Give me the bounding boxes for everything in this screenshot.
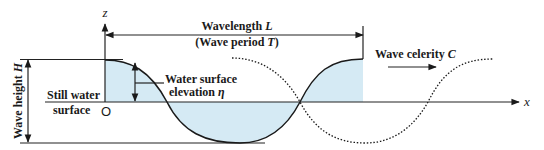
z-axis-label: z	[101, 5, 107, 20]
water-surface-elevation-line2: elevation η	[169, 85, 225, 99]
wave-height-text: Wave height	[11, 72, 25, 139]
wave-celerity-symbol: C	[448, 47, 457, 61]
elevation-symbol: η	[218, 85, 225, 99]
wave-celerity-text: Wave celerity	[375, 47, 448, 61]
elevation-text: elevation	[169, 85, 218, 99]
crest-water-fill-left	[105, 60, 167, 102]
wavelength-label: Wavelength L	[201, 19, 272, 33]
trough-water-fill	[167, 102, 300, 143]
wave-period-text: (Wave period	[195, 35, 267, 49]
wavelength-text: Wavelength	[201, 19, 265, 33]
wave-height-symbol: H	[11, 62, 25, 73]
still-water-surface-line2: surface	[53, 103, 91, 117]
wavelength-symbol: L	[264, 19, 272, 33]
wave-celerity-label: Wave celerity C	[375, 47, 457, 61]
x-axis-label: x	[523, 94, 530, 109]
water-surface-elevation-line1: Water surface	[165, 72, 238, 86]
wave-parameters-diagram: z x O Wavelength L (Wave period T) Wave …	[0, 0, 544, 150]
still-water-surface-line1: Still water	[47, 88, 101, 102]
wave-period-close: )	[275, 35, 279, 49]
wave-period-label: (Wave period T)	[195, 35, 278, 49]
origin-label: O	[101, 104, 111, 119]
wave-height-label: Wave height H	[11, 62, 25, 139]
